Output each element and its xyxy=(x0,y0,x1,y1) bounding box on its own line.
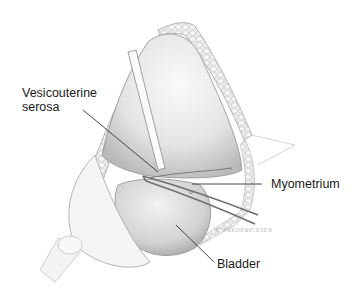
label-vesicouterine-serosa: Vesicouterine serosa xyxy=(22,86,97,114)
label-bladder: Bladder xyxy=(217,257,260,271)
label-line-1: Vesicouterine xyxy=(22,86,97,100)
surgical-illustration xyxy=(0,0,355,293)
uterus xyxy=(102,34,242,178)
label-myometrium: Myometrium xyxy=(271,177,340,191)
artist-signature: E. FREDERICKSEN xyxy=(215,227,273,233)
label-line-2: serosa xyxy=(22,100,97,114)
